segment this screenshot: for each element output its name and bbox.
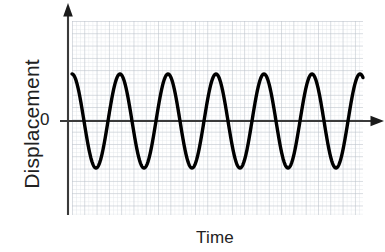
y-axis-arrow-icon: [63, 3, 73, 17]
plot-canvas: [0, 0, 385, 252]
x-axis-title: Time: [160, 228, 270, 248]
x-axis-arrow-icon: [371, 116, 385, 126]
y-axis-zero-tick-label: 0: [40, 110, 49, 130]
wave-graph-figure: Displacement Time 0: [0, 0, 385, 252]
major-gridlines: [72, 21, 363, 215]
